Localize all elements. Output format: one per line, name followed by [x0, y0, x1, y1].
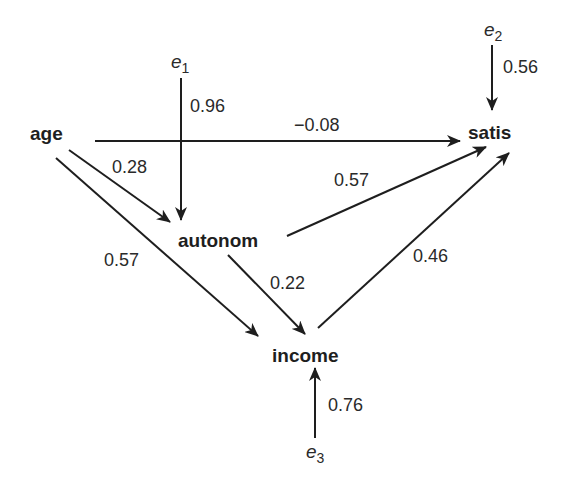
coef-e2-satis: 0.56: [503, 57, 538, 77]
edge-autonom-satis: [287, 147, 486, 236]
node-autonom: autonom: [178, 230, 258, 251]
node-satis: satis: [468, 122, 511, 143]
node-income: income: [272, 345, 339, 366]
coef-autonom-income: 0.22: [270, 273, 305, 293]
coef-age-income: 0.57: [104, 250, 139, 270]
coef-income-satis: 0.46: [413, 246, 448, 266]
coef-e1-autonom: 0.96: [190, 96, 225, 116]
coef-autonom-satis: 0.57: [334, 170, 369, 190]
path-diagram: age autonom income satis e1 e2 e3 0.96 0…: [0, 0, 574, 486]
coef-age-satis: −0.08: [294, 115, 340, 135]
coef-e3-income: 0.76: [328, 395, 363, 415]
coef-age-autonom: 0.28: [112, 157, 147, 177]
edge-autonom-income: [228, 255, 305, 334]
error-e1: e1: [171, 51, 190, 76]
error-e3: e3: [306, 441, 325, 466]
error-e2: e2: [484, 19, 503, 44]
node-age: age: [30, 123, 63, 144]
